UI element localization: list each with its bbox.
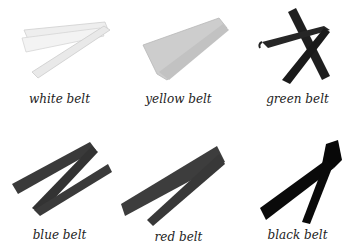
belt-cell-white: white belt <box>0 0 119 124</box>
belt-cell-yellow: yellow belt <box>119 0 238 124</box>
belt-cell-blue: blue belt <box>0 124 119 248</box>
belt-cell-red: red belt <box>119 124 238 248</box>
belt-label: green belt <box>238 92 357 106</box>
belt-label: red belt <box>119 230 238 244</box>
belt-chart: white belt yellow belt green belt blue b… <box>0 0 357 249</box>
belt-label: blue belt <box>0 228 119 242</box>
belt-label: black belt <box>238 228 357 242</box>
belt-cell-green: green belt <box>238 0 357 124</box>
belt-cell-black: black belt <box>238 124 357 248</box>
belt-label: white belt <box>0 92 119 106</box>
belt-label: yellow belt <box>119 92 238 106</box>
